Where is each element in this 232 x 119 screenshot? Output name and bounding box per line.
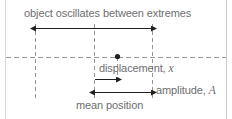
amplitude-label-text: amplitude,	[156, 84, 209, 96]
shm-displacement-diagram: object oscillates between extremes displ…	[0, 0, 232, 119]
mean-position-label: mean position	[76, 99, 143, 111]
displacement-label: displacement, x	[99, 62, 174, 74]
amplitude-label: amplitude, A	[156, 84, 216, 96]
displacement-symbol: x	[169, 62, 174, 74]
amplitude-symbol: A	[209, 84, 216, 96]
displacement-label-text: displacement,	[99, 62, 169, 74]
extremes-span-label: object oscillates between extremes	[24, 7, 191, 19]
object-dot-marker	[115, 54, 120, 59]
